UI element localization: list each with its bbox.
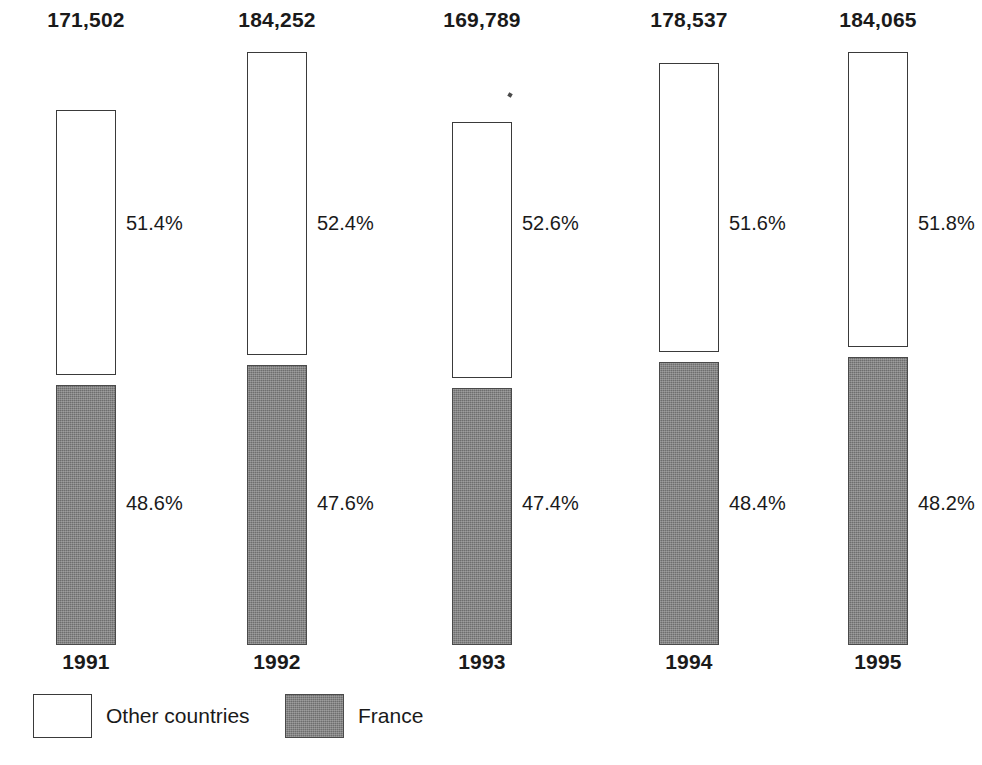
percent-other-countries-1994: 51.6% bbox=[729, 212, 786, 235]
segment-france-1991 bbox=[56, 385, 116, 645]
segment-other-countries-1991 bbox=[56, 110, 116, 375]
column-total-1993: 169,789 bbox=[412, 8, 552, 32]
percent-france-1992: 47.6% bbox=[317, 492, 374, 515]
year-label-1991: 1991 bbox=[16, 650, 156, 674]
segment-france-1995 bbox=[848, 357, 908, 645]
segment-other-countries-1995 bbox=[848, 52, 908, 347]
legend-entry-france: France bbox=[285, 694, 423, 738]
legend-swatch-other-countries-icon bbox=[33, 694, 92, 738]
year-label-1993: 1993 bbox=[412, 650, 552, 674]
percent-other-countries-1995: 51.8% bbox=[918, 212, 975, 235]
segment-france-1994 bbox=[659, 362, 719, 645]
percent-france-1994: 48.4% bbox=[729, 492, 786, 515]
percent-france-1991: 48.6% bbox=[126, 492, 183, 515]
segment-other-countries-1993 bbox=[452, 122, 512, 378]
segment-france-1993 bbox=[452, 388, 512, 645]
column-total-1992: 184,252 bbox=[207, 8, 347, 32]
percent-france-1995: 48.2% bbox=[918, 492, 975, 515]
column-total-1991: 171,502 bbox=[16, 8, 156, 32]
chart-legend: Other countries France bbox=[0, 694, 982, 754]
legend-entry-other-countries: Other countries bbox=[33, 694, 250, 738]
column-1993 bbox=[452, 122, 512, 645]
year-label-1992: 1992 bbox=[207, 650, 347, 674]
percent-other-countries-1992: 52.4% bbox=[317, 212, 374, 235]
percent-france-1993: 47.4% bbox=[522, 492, 579, 515]
segment-other-countries-1994 bbox=[659, 63, 719, 352]
segment-france-1992 bbox=[247, 365, 307, 645]
scan-artifact-speck bbox=[507, 92, 512, 97]
percent-other-countries-1991: 51.4% bbox=[126, 212, 183, 235]
column-1991 bbox=[56, 110, 116, 645]
column-1994 bbox=[659, 63, 719, 645]
column-1992 bbox=[247, 52, 307, 645]
year-label-1994: 1994 bbox=[619, 650, 759, 674]
legend-label-france: France bbox=[358, 704, 423, 728]
column-1995 bbox=[848, 52, 908, 645]
column-total-1995: 184,065 bbox=[808, 8, 948, 32]
legend-label-other-countries: Other countries bbox=[106, 704, 250, 728]
legend-swatch-france-icon bbox=[285, 694, 344, 738]
column-total-1994: 178,537 bbox=[619, 8, 759, 32]
stacked-bar-chart: 171,502 51.4% 48.6% 1991 184,252 52.4% 4… bbox=[0, 0, 982, 765]
segment-other-countries-1992 bbox=[247, 52, 307, 355]
year-label-1995: 1995 bbox=[808, 650, 948, 674]
percent-other-countries-1993: 52.6% bbox=[522, 212, 579, 235]
